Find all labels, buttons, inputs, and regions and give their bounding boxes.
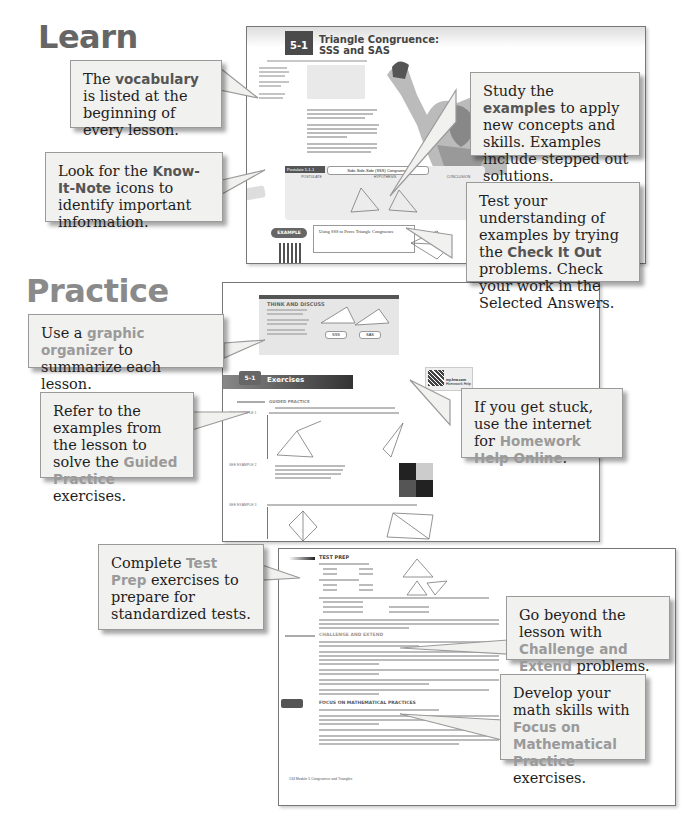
see-example-2: SEE EXAMPLE 2 bbox=[229, 463, 256, 467]
think-discuss-box: THINK AND DISCUSS SSS SAS bbox=[259, 295, 399, 355]
highlight-examples: examples bbox=[483, 100, 556, 116]
callout-graphic-organizer: Use a graphic organizer to summarize eac… bbox=[28, 314, 224, 368]
guided-practice-label: GUIDED PRACTICE bbox=[269, 399, 310, 404]
callout-test-prep: Complete Test Prep exercises to prepare … bbox=[98, 544, 264, 630]
homework-qr bbox=[428, 370, 444, 386]
exercises-title: Exercises bbox=[267, 376, 304, 384]
callout-check-it-out: Test your understanding of examples by t… bbox=[466, 182, 640, 282]
callout-examples: Study the examples to apply new concepts… bbox=[470, 72, 640, 156]
see-example-3: SEE EXAMPLE 3 bbox=[229, 503, 256, 507]
postulate-col-2: HYPOTHESIS bbox=[336, 175, 434, 181]
callout-vocabulary: The vocabulary is listed at the beginnin… bbox=[70, 60, 222, 128]
signal-flag bbox=[399, 463, 433, 497]
callout-homework-help: If you get stuck, use the internet for H… bbox=[461, 388, 623, 458]
postulate-col-1: POSTULATE bbox=[287, 175, 336, 181]
lesson-title-line1: Triangle Congruence: bbox=[319, 34, 439, 45]
example-badge: EXAMPLE bbox=[271, 228, 307, 238]
exercises-number-badge: 5-1 bbox=[239, 371, 261, 385]
callout-challenge-extend: Go beyond the lesson with Challenge and … bbox=[506, 596, 670, 660]
qr-code bbox=[279, 243, 301, 264]
lesson-title: Triangle Congruence: SSS and SAS bbox=[319, 34, 439, 56]
see-example-1: SEE EXAMPLE 1 bbox=[229, 411, 256, 415]
organizer-box-sas: SAS bbox=[359, 331, 381, 339]
challenge-extend-label: CHALLENGE AND EXTEND bbox=[319, 632, 383, 637]
callout-math-practices: Develop your math skills with Focus on M… bbox=[500, 674, 646, 760]
highlight-check-it-out: Check It Out bbox=[507, 244, 601, 260]
postulate-box: Postulate 5-1-1 Side-Side-Side (SSS) Con… bbox=[285, 166, 485, 220]
homework-sub: Homework Help bbox=[446, 382, 471, 386]
think-discuss-title: THINK AND DISCUSS bbox=[267, 301, 325, 307]
practice-heading: Practice bbox=[26, 272, 169, 310]
math-practices-icon bbox=[281, 699, 303, 708]
test-prep-label: TEST PREP bbox=[319, 554, 349, 560]
lesson-number-badge: 5-1 bbox=[285, 31, 313, 55]
focus-math-practices-label: FOCUS ON MATHEMATICAL PRACTICES bbox=[319, 700, 416, 705]
postulate-name: Side-Side-Side (SSS) Congruence bbox=[327, 166, 429, 175]
know-it-note-icon bbox=[246, 185, 266, 201]
page-footer: 134 Module 5 Congruence and Triangles bbox=[289, 777, 352, 781]
postulate-col-3: CONCLUSION bbox=[434, 175, 483, 181]
organizer-box-sss: SSS bbox=[325, 331, 347, 339]
highlight-vocabulary: vocabulary bbox=[115, 71, 199, 87]
learn-heading: Learn bbox=[38, 18, 138, 56]
postulate-label: Postulate 5-1-1 bbox=[285, 166, 325, 173]
callout-guided-practice: Refer to the examples from the lesson to… bbox=[40, 392, 194, 478]
callout-know-it-note: Look for the Know-It-Note icons to ident… bbox=[45, 152, 223, 222]
